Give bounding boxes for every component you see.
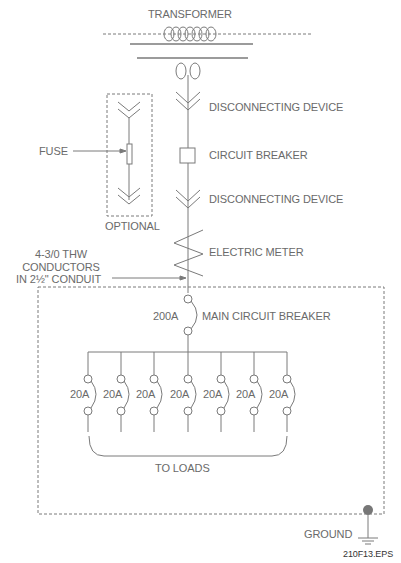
branch-breaker-rating: 20A	[70, 388, 89, 400]
branch-breaker-rating: 20A	[269, 388, 288, 400]
to-loads-brace	[89, 436, 287, 456]
circuit-breaker-icon	[180, 148, 195, 163]
branch-breaker-rating: 20A	[170, 388, 189, 400]
conductors-label-2: CONDUCTORS	[16, 261, 106, 273]
branch-breaker-rating: 20A	[203, 388, 222, 400]
main-circuit-breaker-label: MAIN CIRCUIT BREAKER	[202, 310, 331, 322]
to-loads-label: TO LOADS	[155, 462, 210, 474]
main-circuit-breaker-icon	[184, 295, 197, 335]
disconnecting-device-label: DISCONNECTING DEVICE	[209, 101, 343, 113]
branch-breaker-rating: 20A	[136, 388, 155, 400]
circuit-breaker-label: CIRCUIT BREAKER	[209, 149, 308, 161]
fuse-label: FUSE	[39, 145, 68, 157]
branch-breaker-rating: 20A	[236, 388, 255, 400]
optional-disconnect-top-icon	[118, 102, 140, 118]
disconnecting-device-label-2: DISCONNECTING DEVICE	[209, 193, 343, 205]
figure-id: 210F13.EPS	[343, 549, 393, 559]
fuse-icon	[127, 144, 132, 164]
ground-connection-dot-icon	[363, 505, 373, 515]
conductors-label-1: 4-3/0 THW	[16, 248, 106, 260]
transformer-label: TRANSFORMER	[148, 8, 232, 20]
main-breaker-rating: 200A	[153, 310, 178, 322]
optional-label: OPTIONAL	[105, 220, 160, 232]
conductors-label-3: IN 2½" CONDUIT	[16, 273, 101, 285]
electric-meter-label: ELECTRIC METER	[209, 246, 304, 258]
branch-breaker-rating: 20A	[103, 388, 122, 400]
ground-label: GROUND	[304, 528, 352, 540]
